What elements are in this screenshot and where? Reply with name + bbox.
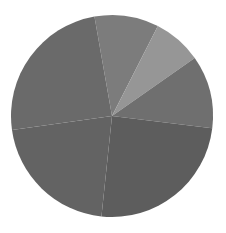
pie-chart-canvas <box>0 0 226 233</box>
pie-chart-figure <box>0 0 226 233</box>
chart-page <box>0 0 226 233</box>
pie-slice-group <box>11 15 213 217</box>
